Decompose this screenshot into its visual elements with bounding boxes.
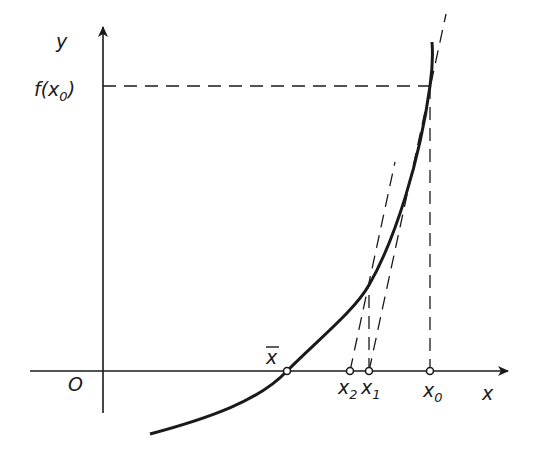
x-bar-point bbox=[284, 368, 291, 375]
x1-label: x1 bbox=[360, 376, 381, 402]
x-axis-label: x bbox=[481, 382, 494, 404]
x0-point bbox=[427, 368, 434, 375]
y-axis-label: y bbox=[55, 30, 68, 52]
newton-method-diagram: y x O f(x0) x x2 x1 x0 bbox=[0, 0, 535, 451]
f-x0-label: f(x0) bbox=[34, 78, 75, 104]
x1-point bbox=[366, 368, 373, 375]
function-curve bbox=[150, 42, 433, 434]
x2-point bbox=[347, 368, 354, 375]
origin-label: O bbox=[68, 373, 83, 395]
x0-label: x0 bbox=[422, 379, 443, 405]
x-bar-label: x bbox=[265, 346, 278, 368]
x2-label: x2 bbox=[337, 376, 358, 402]
tangent-at-x1 bbox=[350, 162, 395, 371]
